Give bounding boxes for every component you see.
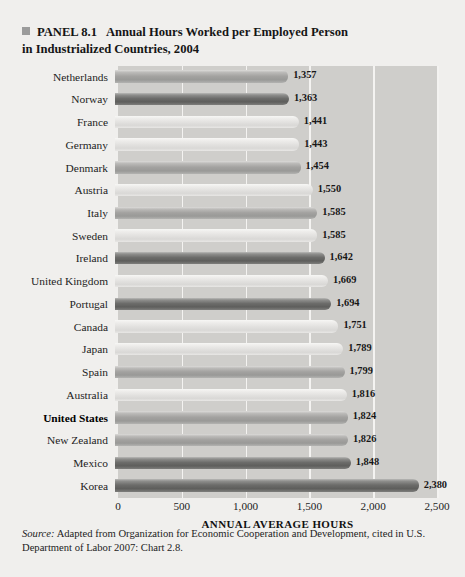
bar-value-label: 1,669 [333, 274, 356, 285]
bar-cell: 1,816 [115, 384, 442, 405]
bar-cell: 2,380 [115, 475, 442, 496]
category-label: Korea [22, 480, 115, 492]
category-label: Denmark [22, 162, 115, 174]
bar-value-label: 1,550 [318, 183, 341, 194]
category-label: Mexico [22, 457, 115, 469]
bar[interactable] [115, 411, 348, 423]
category-label: Netherlands [22, 71, 115, 83]
chart-container: Netherlands1,357Norway1,363France1,441Ge… [22, 62, 442, 512]
category-label: Portugal [22, 298, 115, 310]
bar-cell: 1,848 [115, 453, 442, 474]
bar-rows: Netherlands1,357Norway1,363France1,441Ge… [22, 66, 442, 498]
bar-cell: 1,826 [115, 430, 442, 451]
bar-value-label: 1,789 [348, 342, 371, 353]
bar-row: Korea2,380 [22, 475, 442, 496]
bar[interactable] [115, 366, 345, 378]
bar-row: Norway1,363 [22, 89, 442, 110]
panel-title-block: PANEL 8.1Annual Hours Worked per Employe… [22, 24, 352, 57]
bar-cell: 1,585 [115, 202, 442, 223]
category-label: New Zealand [22, 434, 115, 446]
bar-value-label: 1,443 [304, 138, 327, 149]
bar[interactable] [115, 161, 301, 173]
square-bullet-icon [22, 27, 30, 35]
bar[interactable] [115, 275, 328, 287]
bar[interactable] [115, 320, 338, 332]
bar-value-label: 1,441 [304, 115, 327, 126]
bar-row: Canada1,751 [22, 316, 442, 337]
bar-value-label: 1,824 [353, 410, 376, 421]
bar-value-label: 1,751 [343, 319, 366, 330]
bar-row: Austria1,550 [22, 180, 442, 201]
bar[interactable] [115, 389, 347, 401]
bar[interactable] [115, 252, 325, 264]
category-label: Ireland [22, 252, 115, 264]
x-tick-label: 2,000 [361, 500, 386, 512]
bar-value-label: 1,357 [293, 69, 316, 80]
category-label: Canada [22, 321, 115, 333]
category-label: Japan [22, 343, 115, 355]
bar-cell: 1,454 [115, 157, 442, 178]
bar-value-label: 1,454 [306, 160, 329, 171]
bar-cell: 1,642 [115, 248, 442, 269]
category-label: Australia [22, 389, 115, 401]
bar-row: Spain1,799 [22, 362, 442, 383]
bar[interactable] [115, 479, 419, 491]
bar[interactable] [115, 70, 288, 82]
bar[interactable] [115, 116, 299, 128]
bar-row: Italy1,585 [22, 202, 442, 223]
bar-row: Mexico1,848 [22, 453, 442, 474]
category-label: United States [22, 412, 115, 424]
bar[interactable] [115, 457, 351, 469]
bar-row: France1,441 [22, 111, 442, 132]
bar-value-label: 1,694 [336, 297, 359, 308]
panel-figure: PANEL 8.1Annual Hours Worked per Employe… [0, 0, 465, 577]
bar-row: Germany1,443 [22, 134, 442, 155]
bar-cell: 1,789 [115, 339, 442, 360]
bar-value-label: 1,799 [350, 365, 373, 376]
bar-value-label: 1,848 [356, 456, 379, 467]
category-label: Norway [22, 93, 115, 105]
bar-cell: 1,550 [115, 180, 442, 201]
bar-value-label: 2,380 [424, 479, 447, 490]
bar[interactable] [115, 434, 348, 446]
bar-cell: 1,694 [115, 293, 442, 314]
bar-value-label: 1,585 [322, 229, 345, 240]
bar-row: Australia1,816 [22, 384, 442, 405]
source-note: Source: Adapted from Organization for Ec… [22, 527, 442, 555]
bar[interactable] [115, 229, 317, 241]
bar[interactable] [115, 138, 299, 150]
source-label: Source: [22, 528, 55, 539]
bar-cell: 1,443 [115, 134, 442, 155]
bar-cell: 1,824 [115, 407, 442, 428]
x-tick-label: 1,000 [233, 500, 258, 512]
bar-cell: 1,363 [115, 89, 442, 110]
category-label: Spain [22, 366, 115, 378]
bar-row: United States1,824 [22, 407, 442, 428]
bar-row: Japan1,789 [22, 339, 442, 360]
bar-cell: 1,799 [115, 362, 442, 383]
bar-row: Denmark1,454 [22, 157, 442, 178]
bar[interactable] [115, 184, 313, 196]
bar-value-label: 1,826 [353, 433, 376, 444]
category-label: Italy [22, 207, 115, 219]
category-label: Austria [22, 184, 115, 196]
bar[interactable] [115, 93, 289, 105]
x-tick-label: 0 [115, 500, 121, 512]
category-label: United Kingdom [22, 275, 115, 287]
bar-value-label: 1,816 [352, 388, 375, 399]
bar-row: Sweden1,585 [22, 225, 442, 246]
bar-value-label: 1,363 [294, 92, 317, 103]
bar-cell: 1,669 [115, 271, 442, 292]
x-tick-label: 1,500 [297, 500, 322, 512]
x-axis-ticks: 05001,0001,5002,0002,500 [118, 500, 437, 516]
x-tick-label: 2,500 [424, 500, 449, 512]
bar[interactable] [115, 207, 317, 219]
bar[interactable] [115, 343, 343, 355]
bar-cell: 1,751 [115, 316, 442, 337]
bar-value-label: 1,642 [330, 251, 353, 262]
bar-cell: 1,441 [115, 111, 442, 132]
panel-number: PANEL 8.1 [37, 25, 97, 39]
bar-row: New Zealand1,826 [22, 430, 442, 451]
source-text: Adapted from Organization for Economic C… [22, 528, 425, 553]
bar[interactable] [115, 298, 331, 310]
